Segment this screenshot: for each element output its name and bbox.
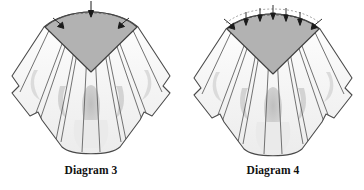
diagram-3-caption: Diagram 3 xyxy=(65,164,118,177)
arrow-marker-right-corner-icon xyxy=(311,19,322,29)
diagram-4-illustration xyxy=(182,0,364,166)
diagram-3-illustration xyxy=(0,0,182,166)
diagram-4-caption: Diagram 4 xyxy=(247,164,300,177)
diagram-cell-3: Diagram 3 xyxy=(0,0,182,190)
diagram-cell-4: Diagram 4 xyxy=(182,0,364,190)
figure-panel: Diagram 3 xyxy=(0,0,364,190)
